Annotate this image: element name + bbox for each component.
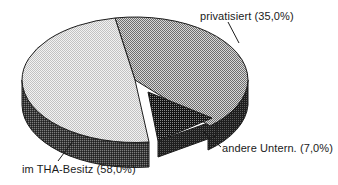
slice-label-im-tha-besitz: im THA-Besitz (58,0%) <box>22 163 136 175</box>
pie-chart: privatisiert (35,0%) andere Untern. (7,0… <box>0 0 338 185</box>
slice-label-privatisiert: privatisiert (35,0%) <box>200 10 294 22</box>
leader-line-privatisiert <box>228 22 239 43</box>
pie-chart-graphic <box>0 0 338 185</box>
slice-label-andere-untern: andere Untern. (7,0%) <box>222 142 333 154</box>
